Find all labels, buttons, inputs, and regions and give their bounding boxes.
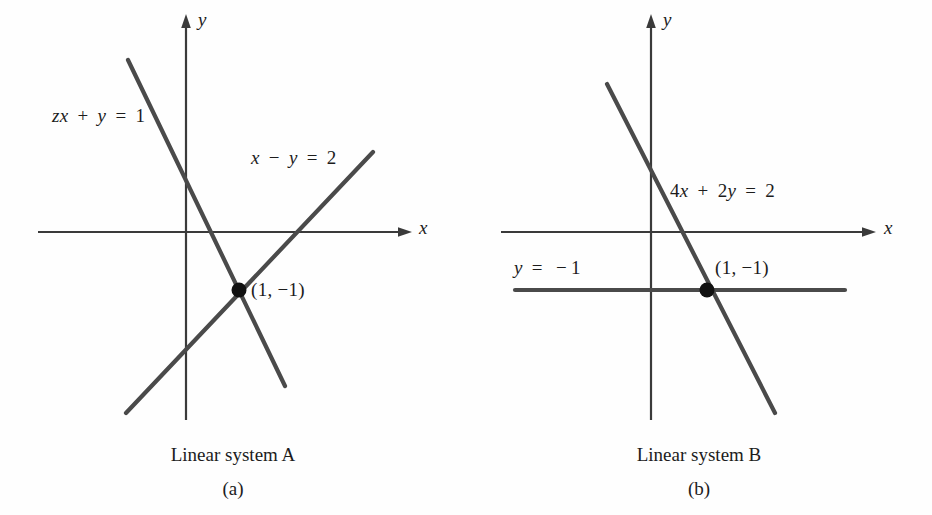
panel-linear-system-b: y x 4x + 2y = 2 y = −1 (1, −1) Linear sy…: [466, 0, 932, 515]
intersection-point-a: [232, 283, 247, 298]
plot-b: [466, 0, 932, 440]
x-axis-b: [501, 227, 876, 237]
equation-label-b-1: 4x + 2y = 2: [670, 181, 775, 200]
equation-label-b-2: y = −1: [514, 258, 581, 277]
caption-title-a: Linear system A: [0, 444, 466, 466]
equation-label-a-2: x − y = 2: [251, 148, 337, 167]
caption-sub-b: (b): [466, 478, 932, 500]
axis-y-label-b: y: [663, 10, 671, 29]
point-label-b: (1, −1): [715, 258, 769, 277]
axis-x-label-a: x: [419, 218, 427, 237]
y-axis-a: [181, 14, 191, 420]
point-label-a: (1, −1): [251, 280, 305, 299]
line-a-eq1: [128, 60, 285, 386]
caption-sub-a: (a): [0, 478, 466, 500]
line-a-eq2: [126, 152, 373, 413]
figure-linear-systems: y x zx + y = 1 x − y = 2 (1, −1) Linear …: [0, 0, 932, 515]
equation-label-a-1: zx + y = 1: [52, 106, 145, 125]
plot-a: [0, 0, 466, 440]
axis-x-label-b: x: [884, 218, 892, 237]
x-axis-a: [38, 227, 412, 237]
line-b-eq1: [607, 84, 775, 413]
caption-title-b: Linear system B: [466, 444, 932, 466]
panel-linear-system-a: y x zx + y = 1 x − y = 2 (1, −1) Linear …: [0, 0, 466, 515]
y-axis-b: [646, 14, 656, 420]
intersection-point-b: [700, 283, 715, 298]
axis-y-label-a: y: [198, 10, 206, 29]
